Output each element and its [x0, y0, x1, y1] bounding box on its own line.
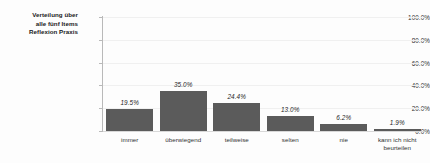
- gridline-40: [103, 85, 424, 86]
- bar: [160, 91, 207, 131]
- gridline-100: [103, 17, 424, 18]
- bar-value-label: 6.2%: [314, 114, 374, 121]
- bar-value-label: 13.0%: [260, 106, 320, 113]
- bar-value-label: 19.5%: [100, 99, 160, 106]
- x-tick-label-line: beurteilen: [364, 144, 430, 152]
- chart-title: Verteilung über alle fünf Items Reflexio…: [4, 11, 78, 37]
- bar: [320, 124, 367, 131]
- bar: [374, 129, 421, 131]
- gridline-0: [103, 131, 424, 132]
- chart-title-line-1: Verteilung über: [4, 11, 78, 20]
- chart-title-line-3: Reflexion Praxis: [4, 28, 78, 37]
- x-tick-label: kann ich nichtbeurteilen: [364, 136, 430, 151]
- bar-chart: Verteilung über alle fünf Items Reflexio…: [0, 0, 430, 163]
- plot-area: 19.5%35.0%24.4%13.0%6.2%1.9%: [103, 17, 424, 131]
- bar: [213, 103, 260, 131]
- bar-value-label: 35.0%: [153, 81, 213, 88]
- gridline-80: [103, 40, 424, 41]
- chart-title-line-2: alle fünf Items: [4, 20, 78, 29]
- bar: [106, 109, 153, 131]
- x-tick-label-line: kann ich nicht: [364, 136, 430, 144]
- gridline-60: [103, 63, 424, 64]
- bar: [267, 116, 314, 131]
- bar-value-label: 24.4%: [207, 93, 267, 100]
- bar-value-label: 1.9%: [367, 119, 427, 126]
